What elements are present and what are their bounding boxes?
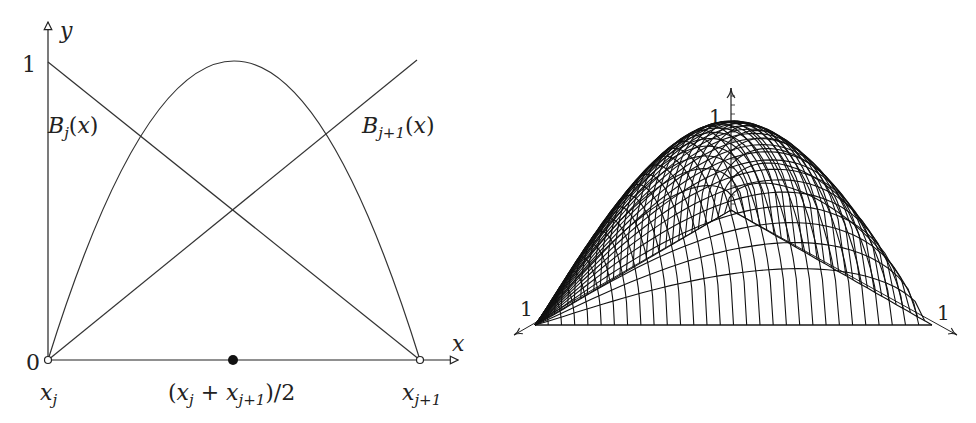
y-axis-label: y	[59, 18, 73, 43]
mesh-line	[620, 165, 707, 325]
left-axis-one-label: 1	[520, 297, 533, 321]
mesh-line	[535, 128, 781, 325]
mesh-line	[692, 125, 853, 325]
y-one-label: 1	[22, 52, 36, 77]
right-chart: 1 1 1	[514, 88, 957, 335]
mesh-line	[535, 210, 731, 325]
right-axis-one-label: 1	[937, 301, 950, 325]
surface-mesh	[535, 121, 932, 325]
midpoint-tick-label: (xj + xj+1)/2	[168, 380, 295, 409]
left-chart: y 1 0 x Bj(x) Bj+1(x) xj (xj + xj+1)/2 x…	[22, 18, 465, 409]
mesh-line	[535, 192, 896, 325]
midpoint-marker	[228, 355, 238, 365]
bj1-label: Bj+1(x)	[361, 113, 435, 142]
bj1-line	[48, 60, 417, 360]
xj-tick-label: xj	[40, 380, 57, 409]
x-axis-label: x	[452, 331, 465, 356]
y-zero-label: 0	[26, 350, 40, 375]
figure-canvas: y 1 0 x Bj(x) Bj+1(x) xj (xj + xj+1)/2 x…	[0, 0, 976, 423]
right-node-marker	[417, 357, 424, 364]
mesh-line	[535, 145, 860, 325]
left-node-marker	[45, 357, 52, 364]
bj-label: Bj(x)	[47, 113, 98, 142]
xj1-tick-label: xj+1	[402, 380, 441, 409]
